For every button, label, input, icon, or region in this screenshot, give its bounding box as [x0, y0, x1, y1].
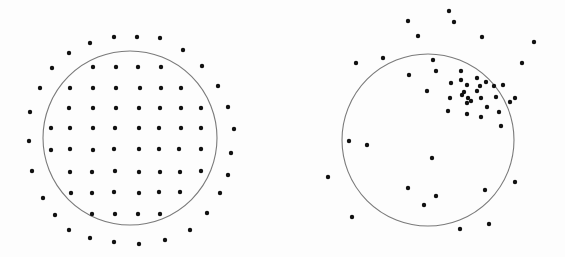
point-dot [135, 35, 139, 39]
point-dot [68, 86, 72, 90]
point-dot [532, 40, 536, 44]
point-dot [226, 173, 230, 177]
point-dot [90, 191, 94, 195]
point-dot [218, 191, 222, 195]
point-dot [90, 212, 94, 216]
point-dot [226, 105, 230, 109]
point-dot [406, 19, 410, 23]
point-dot [136, 65, 140, 69]
point-dot [137, 242, 141, 246]
point-dot [199, 169, 203, 173]
point-dot [459, 69, 463, 73]
point-dot [200, 64, 204, 68]
point-dot [50, 66, 54, 70]
point-dot [480, 35, 484, 39]
point-dot [69, 191, 73, 195]
point-dot [416, 34, 420, 38]
point-dot [30, 169, 34, 173]
point-dot [354, 61, 358, 65]
point-dot [112, 190, 116, 194]
point-dot [114, 106, 118, 110]
point-dot [138, 86, 142, 90]
point-dot [465, 101, 469, 105]
point-dot [179, 126, 183, 130]
point-dot [475, 89, 479, 93]
point-dot [90, 170, 94, 174]
point-dot [460, 93, 464, 97]
point-dot [229, 151, 233, 155]
point-dot [475, 76, 479, 80]
point-dot [112, 240, 116, 244]
point-dot [347, 139, 351, 143]
point-dot [452, 20, 456, 24]
point-dot [137, 191, 141, 195]
point-dot [91, 148, 95, 152]
point-dot [434, 194, 438, 198]
point-dot [497, 110, 501, 114]
point-dot [137, 170, 141, 174]
point-dot [447, 9, 451, 13]
point-dot [188, 228, 192, 232]
point-dot [199, 126, 203, 130]
point-dot [407, 73, 411, 77]
point-dot [68, 126, 72, 130]
point-dot [501, 83, 505, 87]
point-dot [484, 80, 488, 84]
point-dot [159, 86, 163, 90]
point-dot [458, 227, 462, 231]
point-dot [157, 147, 161, 151]
point-dot [41, 196, 45, 200]
clustered-distribution-panel [326, 9, 536, 231]
point-dot [113, 126, 117, 130]
point-dot [178, 190, 182, 194]
point-dot [137, 147, 141, 151]
point-dot [27, 139, 31, 143]
point-dot [469, 99, 473, 103]
boundary-circle [43, 51, 217, 225]
point-dot [112, 35, 116, 39]
point-dot [91, 65, 95, 69]
point-dot [157, 190, 161, 194]
point-dot [114, 86, 118, 90]
point-dot [88, 41, 92, 45]
point-dot [163, 238, 167, 242]
point-dot [67, 106, 71, 110]
dot-distribution-figure [0, 0, 565, 257]
regular-lattice-panel [27, 35, 236, 246]
diagram-canvas [0, 0, 565, 257]
point-dot [199, 147, 203, 151]
point-dot [425, 89, 429, 93]
point-dot [88, 236, 92, 240]
point-dot [114, 65, 118, 69]
point-dot [430, 156, 434, 160]
point-dot [205, 211, 209, 215]
point-dot [483, 188, 487, 192]
point-dot [350, 215, 354, 219]
point-dot [478, 84, 482, 88]
point-dot [494, 95, 498, 99]
point-dot [508, 100, 512, 104]
point-dot [112, 147, 116, 151]
point-dot [216, 84, 220, 88]
point-dot [157, 126, 161, 130]
point-dot [158, 170, 162, 174]
point-dot [326, 175, 330, 179]
point-dot [113, 212, 117, 216]
point-dot [479, 115, 483, 119]
point-dot [38, 86, 42, 90]
point-dot [448, 96, 452, 100]
point-dot [158, 212, 162, 216]
point-dot [91, 86, 95, 90]
point-dot [431, 58, 435, 62]
point-dot [513, 96, 517, 100]
point-dot [465, 83, 469, 87]
point-dot [449, 81, 453, 85]
point-dot [49, 126, 53, 130]
point-dot [178, 170, 182, 174]
point-dot [520, 61, 524, 65]
point-dot [465, 112, 469, 116]
point-dot [159, 65, 163, 69]
boundary-circle [342, 54, 514, 226]
point-dot [406, 186, 410, 190]
point-dot [68, 147, 72, 151]
